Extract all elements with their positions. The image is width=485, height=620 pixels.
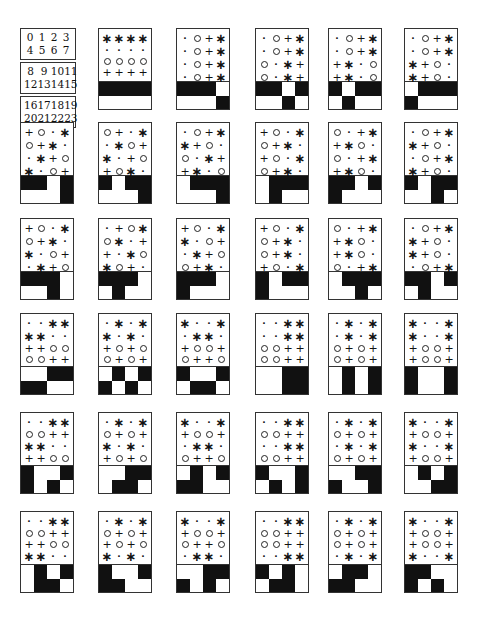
plus-icon: + <box>137 429 149 440</box>
white-cell <box>342 466 355 480</box>
black-cell <box>418 272 431 286</box>
white-cell <box>431 367 444 381</box>
white-cell <box>216 480 229 494</box>
dot-icon: · <box>443 58 455 71</box>
symbol-grid: ·+∗+∗··+∗+∗· <box>328 122 382 176</box>
white-cell <box>342 190 355 204</box>
white-cell <box>203 190 216 204</box>
key-num: 0 <box>24 31 36 44</box>
symbol-panel: +·∗·∗+∗·++∗· <box>98 122 152 204</box>
black-cell <box>329 190 342 204</box>
asterisk-icon: ∗ <box>23 248 35 261</box>
dot-icon: · <box>59 139 71 152</box>
white-cell <box>355 480 368 494</box>
dot-icon: · <box>258 330 270 343</box>
dot-icon: · <box>331 45 343 58</box>
circle-icon <box>331 539 343 550</box>
symbol-grid: ·+∗∗·++·∗∗+· <box>98 218 152 272</box>
dot-icon: · <box>443 235 455 248</box>
black-cell <box>342 565 355 579</box>
dot-icon: · <box>331 550 343 563</box>
circle-icon <box>137 152 149 165</box>
circle-icon <box>47 248 59 261</box>
circle-icon <box>270 354 282 365</box>
circle-icon <box>125 354 137 365</box>
dot-icon: · <box>431 416 443 429</box>
asterisk-icon: ∗ <box>59 317 71 330</box>
asterisk-icon: ∗ <box>407 139 419 152</box>
symbol-grid: +·∗∗·+·∗++∗· <box>176 218 230 272</box>
asterisk-icon: ∗ <box>137 126 149 139</box>
white-cell <box>203 96 216 110</box>
symbol-panel: +·∗+∗·+·∗+∗· <box>255 122 309 204</box>
key-num: 3 <box>60 31 72 44</box>
white-cell <box>256 480 269 494</box>
black-cell <box>431 480 444 494</box>
plus-icon: + <box>191 453 203 464</box>
asterisk-icon: ∗ <box>203 550 215 563</box>
symbol-grid: ··∗∗++++∗∗·· <box>20 511 74 565</box>
black-cell <box>177 286 190 300</box>
plus-icon: + <box>125 67 137 78</box>
white-cell <box>138 272 151 286</box>
asterisk-icon: ∗ <box>367 222 379 235</box>
plus-icon: + <box>113 354 125 365</box>
circle-icon <box>270 343 282 354</box>
white-cell <box>216 82 229 96</box>
white-cell <box>112 176 125 190</box>
circle-icon <box>270 126 282 139</box>
black-cell <box>329 579 342 593</box>
white-cell <box>256 190 269 204</box>
white-cell <box>99 96 112 110</box>
dot-icon: · <box>431 330 443 343</box>
black-cell <box>431 579 444 593</box>
black-cell <box>177 82 190 96</box>
key-num: 14 <box>51 78 64 91</box>
symbol-grid: ∗··∗++++∗··∗ <box>404 511 458 565</box>
white-cell <box>418 367 431 381</box>
black-cell <box>368 82 381 96</box>
symbol-panel: ··∗∗++++··∗∗ <box>255 511 309 593</box>
bar-pattern <box>328 565 382 593</box>
symbol-panel: +·∗∗·+·∗++∗· <box>176 218 230 300</box>
white-cell <box>203 367 216 381</box>
dot-icon: · <box>191 416 203 429</box>
white-cell <box>418 96 431 110</box>
plus-icon: + <box>431 126 443 139</box>
dot-icon: · <box>355 416 367 429</box>
black-cell <box>47 367 60 381</box>
circle-icon <box>331 126 343 139</box>
asterisk-icon: ∗ <box>35 550 47 563</box>
circle-icon <box>203 235 215 248</box>
black-cell <box>269 82 282 96</box>
white-cell <box>444 579 457 593</box>
white-cell <box>282 286 295 300</box>
dot-icon: · <box>331 330 343 343</box>
black-cell <box>342 579 355 593</box>
dot-icon: · <box>270 440 282 453</box>
symbol-panel: ·+∗·+∗+∗·+∗· <box>328 28 382 110</box>
black-cell <box>21 480 34 494</box>
circle-icon <box>431 58 443 71</box>
circle-icon <box>419 539 431 550</box>
bar-pattern <box>404 82 458 110</box>
black-cell <box>216 96 229 110</box>
white-cell <box>138 381 151 395</box>
symbol-panel: ·+∗∗+·∗+··+∗ <box>404 218 458 300</box>
dot-icon: · <box>35 416 47 429</box>
plus-icon: + <box>431 152 443 165</box>
dot-icon: · <box>407 32 419 45</box>
dot-icon: · <box>258 416 270 429</box>
key-num: 18 <box>51 99 64 112</box>
black-cell <box>405 579 418 593</box>
circle-icon <box>419 343 431 354</box>
bar-pattern <box>98 176 152 204</box>
circle-icon <box>35 126 47 139</box>
dot-icon: · <box>270 515 282 528</box>
asterisk-icon: ∗ <box>294 222 306 235</box>
asterisk-icon: ∗ <box>343 139 355 152</box>
black-cell <box>269 579 282 593</box>
black-cell <box>256 82 269 96</box>
asterisk-icon: ∗ <box>282 550 294 563</box>
black-cell <box>216 190 229 204</box>
